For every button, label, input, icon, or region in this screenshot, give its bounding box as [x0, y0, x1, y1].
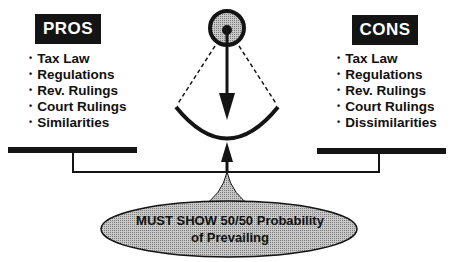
cons-item: Dissimilarities	[337, 115, 437, 131]
right-scale-pan	[317, 148, 446, 154]
pendulum-arrow-icon	[219, 34, 235, 120]
cons-item: Tax Law	[337, 51, 437, 67]
needle-arrow-icon	[221, 142, 233, 172]
fulcrum-label-line1: MUST SHOW 50/50 Probability	[110, 212, 350, 229]
pros-item: Similarities	[29, 115, 126, 131]
pros-item: Court Rulings	[29, 99, 126, 115]
cons-item: Court Rulings	[337, 99, 437, 115]
fulcrum-label: MUST SHOW 50/50 Probability of Prevailin…	[110, 212, 350, 246]
cons-list: Tax Law Regulations Rev. Rulings Court R…	[337, 51, 437, 131]
pros-list: Tax Law Regulations Rev. Rulings Court R…	[29, 51, 126, 131]
cons-item: Rev. Rulings	[337, 83, 437, 99]
fulcrum-label-line2: of Prevailing	[110, 229, 350, 246]
cons-item: Regulations	[337, 67, 437, 83]
cons-header: CONS	[352, 15, 418, 45]
pros-header: PROS	[35, 14, 101, 44]
pros-item: Rev. Rulings	[29, 83, 126, 99]
pros-item: Tax Law	[29, 51, 126, 67]
pros-item: Regulations	[29, 67, 126, 83]
left-scale-pan	[8, 147, 137, 153]
